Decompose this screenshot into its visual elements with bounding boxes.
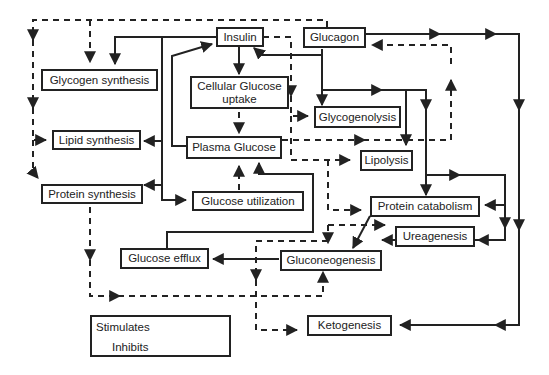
legend-inhibits-label: Inhibits (112, 341, 148, 353)
node-ketogenesis: Ketogenesis (307, 315, 392, 336)
node-label: Glucagon (310, 31, 359, 44)
node-plasma-glucose: Plasma Glucose (186, 136, 282, 159)
node-label: Ureagenesis (403, 230, 468, 243)
node-label: Glycogenolysis (319, 111, 396, 124)
node-glycogen-synthesis: Glycogen synthesis (41, 69, 158, 91)
legend-stimulates-label: Stimulates (96, 321, 150, 333)
node-label: Glucose efflux (128, 252, 201, 265)
node-lipolysis: Lipolysis (360, 150, 413, 171)
node-label: Cellular Glucose (197, 80, 281, 93)
node-insulin: Insulin (216, 27, 264, 47)
node-label: Ketogenesis (318, 319, 381, 332)
node-label: Glucose utilization (201, 195, 294, 208)
node-label: Protein synthesis (48, 188, 136, 201)
node-cellular-glucose-uptake: Cellular Glucoseuptake (190, 76, 289, 109)
node-label: Glycogen synthesis (50, 74, 150, 87)
node-glucose-efflux: Glucose efflux (120, 248, 209, 269)
legend: Stimulates Inhibits (90, 315, 231, 357)
node-label: uptake (222, 93, 257, 106)
node-gluconeogenesis: Gluconeogenesis (280, 250, 382, 271)
node-protein-synthesis: Protein synthesis (41, 184, 143, 204)
node-glycogenolysis: Glycogenolysis (314, 106, 401, 128)
node-label: Protein catabolism (378, 200, 473, 213)
node-label: Plasma Glucose (192, 141, 276, 154)
node-glucagon: Glucagon (303, 27, 366, 48)
node-lipid-synthesis: Lipid synthesis (52, 130, 141, 150)
node-label: Gluconeogenesis (287, 254, 376, 267)
node-label: Lipid synthesis (59, 134, 134, 147)
node-glucose-utilization: Glucose utilization (192, 191, 304, 211)
node-label: Lipolysis (364, 154, 408, 167)
node-protein-catabolism: Protein catabolism (370, 196, 480, 217)
node-ureagenesis: Ureagenesis (395, 226, 475, 247)
node-label: Insulin (223, 31, 256, 44)
